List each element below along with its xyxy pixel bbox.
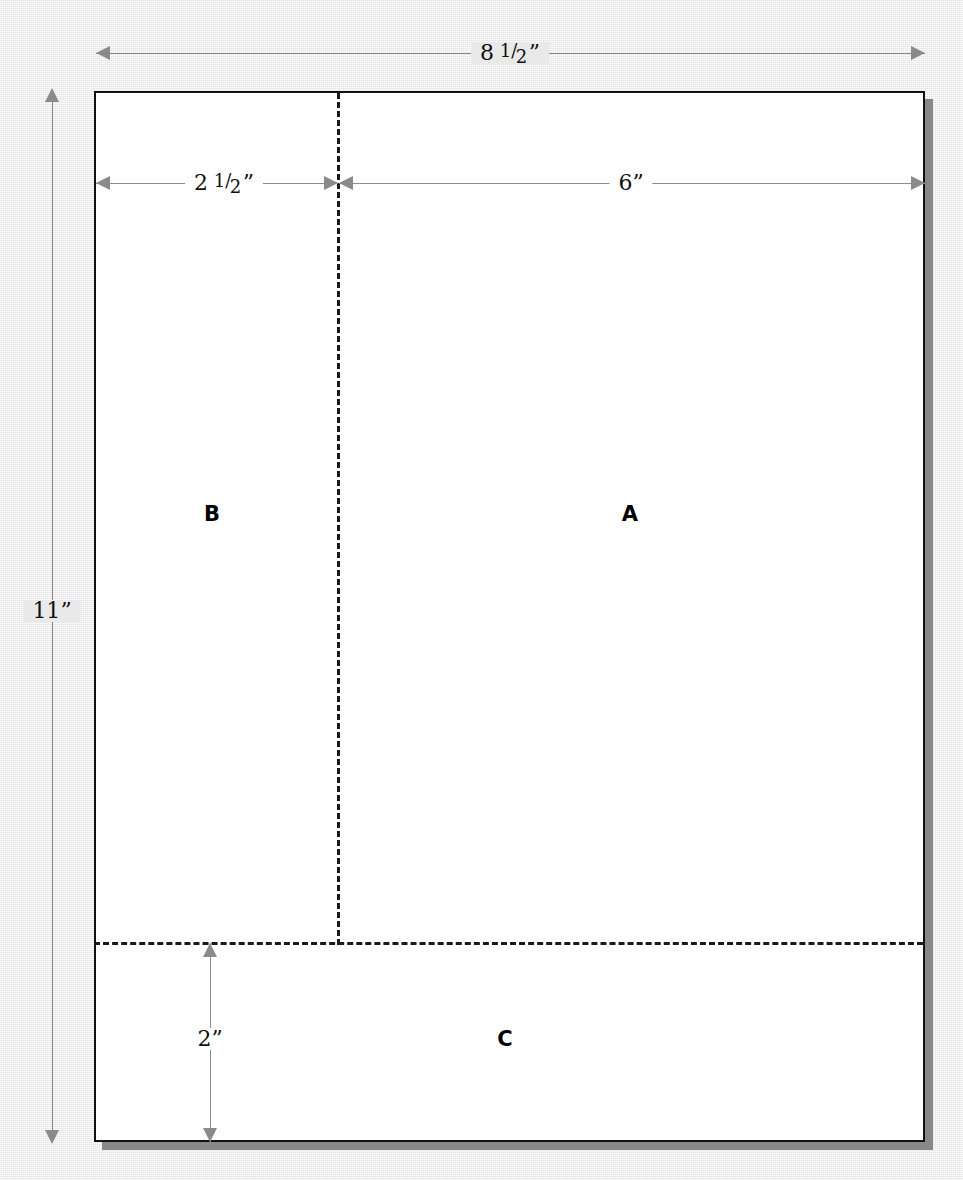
dimension-fraction: 1/2 bbox=[208, 170, 243, 191]
arrow-up-icon bbox=[45, 88, 59, 102]
zone-label-c: C bbox=[497, 1029, 512, 1050]
paper-sheet bbox=[94, 91, 925, 1142]
dimension-fraction: 1/2 bbox=[494, 40, 529, 61]
arrow-down-icon bbox=[45, 1130, 59, 1144]
dimension-whole: 8 bbox=[480, 40, 494, 65]
arrow-right-icon bbox=[324, 176, 338, 190]
arrow-left-icon bbox=[339, 176, 353, 190]
arrow-left-icon bbox=[96, 176, 110, 190]
fold-line-horizontal bbox=[94, 942, 923, 945]
dimension-whole: 2 bbox=[194, 170, 208, 195]
arrow-right-icon bbox=[911, 46, 925, 60]
zone-label-a: A bbox=[622, 504, 638, 525]
dimension-whole: 11 bbox=[32, 598, 60, 623]
dimension-label-overall-width: 8 1/2” bbox=[471, 42, 549, 64]
arrow-left-icon bbox=[96, 46, 110, 60]
dimension-unit: ” bbox=[632, 170, 643, 195]
dimension-unit: ” bbox=[243, 170, 254, 195]
arrow-down-icon bbox=[203, 1128, 217, 1142]
dimension-whole: 6 bbox=[618, 170, 632, 195]
arrow-right-icon bbox=[911, 176, 925, 190]
arrow-up-icon bbox=[203, 943, 217, 957]
dimension-unit: ” bbox=[60, 598, 71, 623]
dimension-label-overall-height: 11” bbox=[23, 600, 80, 622]
dimension-label-right-panel-width: 6” bbox=[609, 172, 652, 194]
dimension-unit: ” bbox=[529, 40, 540, 65]
dimension-whole: 2 bbox=[197, 1026, 211, 1051]
fold-line-vertical bbox=[337, 93, 340, 945]
paper-dimension-diagram: 8 1/2” 2 1/2” 6” 11” 2” A B C bbox=[0, 0, 963, 1180]
dimension-unit: ” bbox=[211, 1026, 222, 1051]
dimension-label-bottom-panel-height: 2” bbox=[188, 1028, 231, 1050]
dimension-label-left-panel-width: 2 1/2” bbox=[185, 172, 263, 194]
zone-label-b: B bbox=[204, 504, 220, 525]
